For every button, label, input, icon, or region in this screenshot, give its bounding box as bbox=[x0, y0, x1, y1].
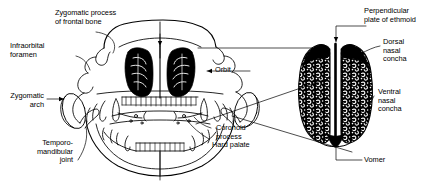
label-perpendicular-plate-of-ethmoid: Perpendicular plate of ethmoid bbox=[364, 7, 416, 24]
label-zygomatic-process-of-frontal-bone: Zygomatic process of frontal bone bbox=[55, 9, 116, 26]
label-coronoid-process: Coronoid process bbox=[216, 124, 246, 141]
label-orbit: Orbit bbox=[215, 66, 231, 75]
label-ventral-nasal-concha: Ventral nasal concha bbox=[378, 88, 402, 114]
label-infraorbital-foramen: Infraorbital foramen bbox=[10, 42, 44, 59]
label-dorsal-nasal-concha: Dorsal nasal concha bbox=[383, 38, 407, 64]
label-hard-palate: Hard palate bbox=[212, 141, 250, 150]
label-temporomandibular-joint: Temporo- mandibular joint bbox=[0, 139, 73, 165]
nasal-transverse-section bbox=[299, 44, 373, 147]
anatomy-figure: Zygomatic process of frontal bone Infrao… bbox=[0, 0, 433, 183]
label-zygomatic-arch: Zygomatic arch bbox=[0, 92, 44, 109]
label-vomer: Vomer bbox=[364, 156, 385, 165]
